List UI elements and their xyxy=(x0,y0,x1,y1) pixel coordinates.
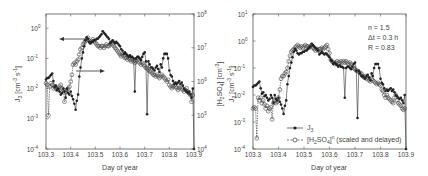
x-tick-label: 103.4 xyxy=(270,151,287,158)
legend: J3 [H2SO4]n (scaled and delayed) xyxy=(287,124,401,145)
left-right-y-axis-label: [H2SO4] [cm-3] xyxy=(214,62,225,106)
annotation-box: n = 1.5 Δt = 0.3 h R = 0.83 xyxy=(368,24,398,51)
left-x-axis-label: Day of year xyxy=(102,164,138,172)
annotation-n: n = 1.5 xyxy=(368,24,390,31)
y-tick-label: 10-4 xyxy=(234,145,246,153)
left-y-axis-ticks: 10010-110-210-310-4 xyxy=(27,24,49,153)
x-tick-label: 103.7 xyxy=(137,151,154,158)
right-chart-panel: 103.3103.4103.5103.6103.7103.8103.9 1011… xyxy=(226,10,415,173)
y-tick-label-right: 104 xyxy=(197,145,207,153)
svg-text:[H2SO4]n (scaled and delayed): [H2SO4]n (scaled and delayed) xyxy=(307,134,401,145)
legend-item-h2so4: [H2SO4]n (scaled and delayed) xyxy=(287,134,401,145)
left-plot-series xyxy=(44,30,195,150)
open-circle-icon xyxy=(293,138,297,142)
svg-text:J3: J3 xyxy=(307,124,314,133)
y-tick-label: 101 xyxy=(238,10,248,18)
y-tick-label: 10-3 xyxy=(234,118,246,126)
y-tick-label-right: 107 xyxy=(197,43,207,51)
x-tick-label: 103.8 xyxy=(372,151,389,158)
x-tick-label: 103.8 xyxy=(161,151,178,158)
y-tick-label: 100 xyxy=(238,37,248,45)
x-tick-label: 103.7 xyxy=(347,151,364,158)
right-plot-series xyxy=(251,42,407,150)
x-tick-label: 103.6 xyxy=(112,151,129,158)
x-tick-label: 103.3 xyxy=(245,151,262,158)
x-tick-label: 103.4 xyxy=(63,151,80,158)
y-tick-label-right: 108 xyxy=(197,10,207,18)
x-tick-label: 103.5 xyxy=(87,151,104,158)
right-x-axis-label: Day of year xyxy=(311,164,347,172)
y-tick-label-right: 106 xyxy=(197,77,207,85)
x-tick-label: 103.9 xyxy=(398,151,415,158)
x-tick-label: 103.6 xyxy=(321,151,338,158)
x-tick-label: 103.5 xyxy=(296,151,313,158)
y-tick-label: 10-1 xyxy=(27,54,39,62)
x-tick-label: 103.3 xyxy=(38,151,55,158)
y-tick-label: 10-3 xyxy=(27,114,39,122)
legend-item-j3: J3 xyxy=(287,124,314,133)
right-y-axis-ticks: 10110010-110-210-310-4 xyxy=(234,10,256,153)
figure: 103.3103.4103.5103.6103.7103.8103.9 1001… xyxy=(0,0,428,176)
filled-circle-icon xyxy=(293,126,296,129)
annotation-dt: Δt = 0.3 h xyxy=(368,34,398,41)
y-tick-label: 10-2 xyxy=(27,84,39,92)
y-tick-label: 100 xyxy=(31,24,41,32)
left-chart-panel: 103.3103.4103.5103.6103.7103.8103.9 1001… xyxy=(12,10,225,173)
y-tick-label: 10-1 xyxy=(234,64,246,72)
y-tick-label: 10-4 xyxy=(27,145,39,153)
annotation-r: R = 0.83 xyxy=(368,44,395,51)
left-y-axis-label: J3 [cm-3 s-1] xyxy=(12,66,23,102)
y-tick-label-right: 105 xyxy=(197,111,207,119)
